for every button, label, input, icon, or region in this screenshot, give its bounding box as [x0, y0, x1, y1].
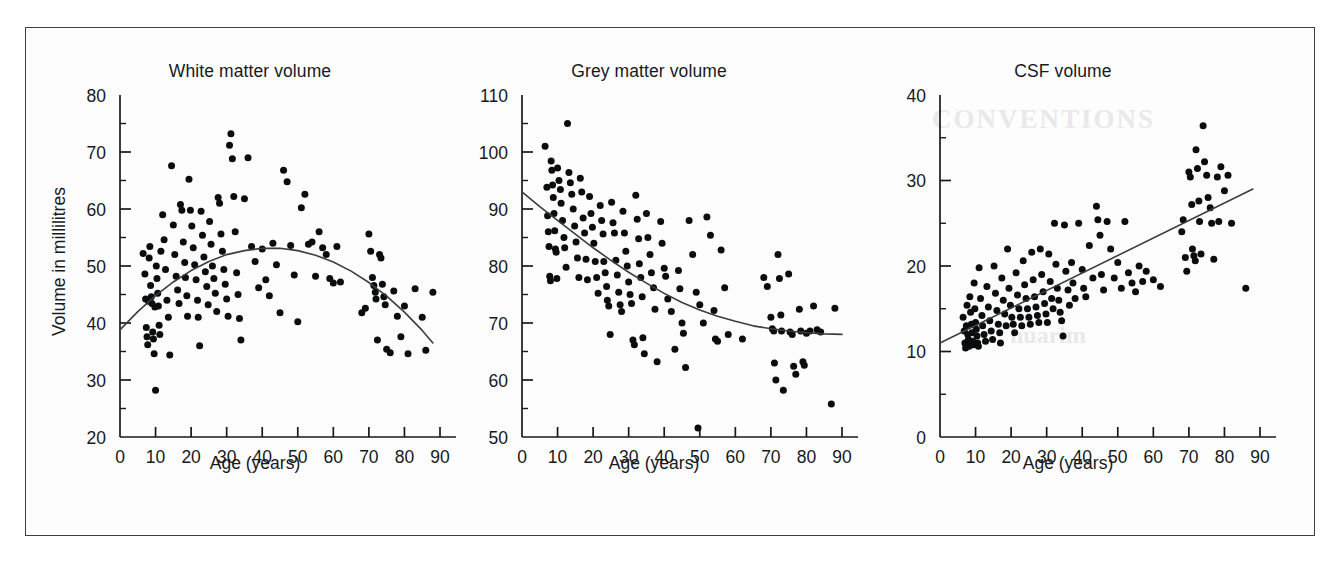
y-tick-label: 60: [87, 200, 107, 220]
fit-curve: [940, 189, 1253, 343]
y-tick-label: 40: [87, 314, 107, 334]
plot-csf: 0102030400102030405060708090: [848, 55, 1278, 485]
y-tick-label: 0: [916, 428, 926, 448]
y-tick-label: 110: [480, 86, 508, 106]
y-tick-label: 70: [489, 314, 509, 334]
x-axis-label: Age (years): [430, 453, 860, 474]
panel-csf: CSF volume 0102030400102030405060708090 …: [848, 55, 1278, 485]
y-tick-label: 60: [489, 371, 509, 391]
y-tick-label: 80: [87, 86, 107, 106]
y-tick-label: 20: [907, 257, 927, 277]
y-tick-label: 20: [87, 428, 107, 448]
y-tick-label: 30: [87, 371, 107, 391]
y-tick-label: 50: [489, 428, 509, 448]
y-tick-label: 40: [907, 86, 927, 106]
plot-grey-matter: 50607080901001100102030405060708090: [430, 55, 860, 485]
y-tick-label: 100: [479, 143, 508, 163]
scatter-points: [960, 122, 1250, 351]
panel-container: White matter volume 20304050607080010203…: [0, 0, 1343, 569]
y-tick-label: 90: [489, 200, 509, 220]
y-tick-label: 80: [489, 257, 509, 277]
panel-grey-matter: Grey matter volume 506070809010011001020…: [430, 55, 860, 485]
scatter-points: [542, 120, 839, 431]
y-tick-label: 10: [907, 342, 927, 362]
scatter-points: [140, 130, 437, 394]
y-tick-label: 30: [907, 171, 927, 191]
plot-white-matter: 203040506070800102030405060708090: [28, 55, 458, 485]
x-axis-label: Age (years): [848, 453, 1278, 474]
x-axis-label: Age (years): [28, 453, 458, 474]
fit-curve: [522, 192, 842, 335]
y-axis-label: Volume in millilitres: [49, 147, 70, 377]
y-tick-label: 50: [87, 257, 107, 277]
panel-white-matter: White matter volume 20304050607080010203…: [28, 55, 458, 485]
y-tick-label: 70: [87, 143, 107, 163]
